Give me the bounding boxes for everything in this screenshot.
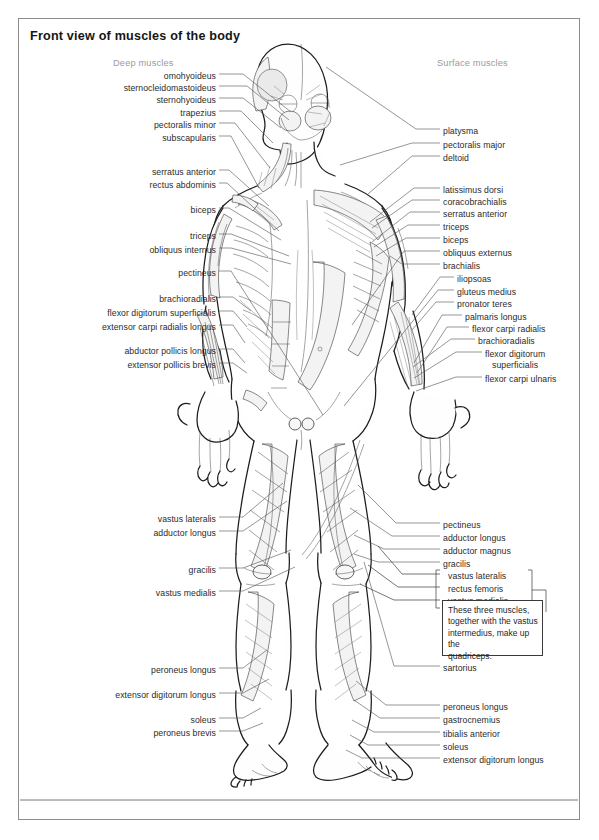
label-soleus-surface: soleus [443, 742, 468, 752]
label-biceps-surface: biceps [443, 235, 468, 245]
label-sternohyoideus: sternohyoideus [156, 95, 216, 105]
column-heading-deep: Deep muscles [113, 58, 174, 68]
label-latissimus-dorsi: latissimus dorsi [443, 185, 503, 195]
anatomy-diagram-page: Front view of muscles of the body Deep m… [0, 0, 599, 840]
label-brachioradialis-deep: brachioradialis [159, 294, 216, 304]
diagram-frame [18, 18, 580, 820]
label-extensor-pollicis-brevis: extensor pollicis brevis [127, 360, 216, 370]
label-omohyoideus: omohyoideus [164, 71, 216, 81]
page-title: Front view of muscles of the body [30, 29, 240, 43]
label-gracilis-deep: gracilis [189, 565, 216, 575]
label-adductor-magnus: adductor magnus [443, 546, 511, 556]
label-flexor-digitorum-superficialis-deep: flexor digitorum superficialis [107, 308, 216, 318]
label-superficialis: superficialis [492, 360, 538, 370]
label-abductor-pollicis-longus: abductor pollicis longus [124, 346, 216, 356]
label-vastus-medialis-deep: vastus medialis [156, 588, 216, 598]
label-trapezius: trapezius [180, 108, 216, 118]
label-iliopsoas: iliopsoas [457, 274, 491, 284]
label-serratus-anterior-surface: serratus anterior [443, 209, 507, 219]
label-sartorius: sartorius [443, 663, 477, 673]
label-tibialis-anterior: tibialis anterior [443, 729, 500, 739]
label-vastus-lateralis-deep: vastus lateralis [158, 514, 216, 524]
label-triceps-surface: triceps [443, 222, 469, 232]
quadriceps-note-text: These three muscles, together with the v… [448, 605, 538, 662]
label-pectoralis-minor: pectoralis minor [154, 120, 216, 130]
label-flexor-carpi-ulnaris: flexor carpi ulnaris [485, 374, 557, 384]
label-triceps-deep: triceps [190, 231, 216, 241]
label-flexor-digitorum: flexor digitorum [485, 349, 545, 359]
label-extensor-digitorum-longus-deep: extensor digitorum longus [115, 690, 216, 700]
label-obliquus-internus: obliquus internus [149, 245, 216, 255]
label-vastus-lateralis-surface: vastus lateralis [448, 571, 506, 581]
label-pronator-teres: pronator teres [457, 299, 512, 309]
label-pectineus-surface: pectineus [443, 520, 481, 530]
label-coracobrachialis: coracobrachialis [443, 197, 507, 207]
label-rectus-abdominis: rectus abdominis [150, 180, 216, 190]
label-rectus-femoris: rectus femoris [448, 584, 503, 594]
label-gastrocnemius: gastrocnemius [443, 715, 500, 725]
label-palmaris-longus: palmaris longus [465, 312, 527, 322]
label-extensor-carpi-radialis-longus: extensor carpi radialis longus [102, 322, 216, 332]
label-gracilis-surface: gracilis [443, 559, 470, 569]
label-soleus-deep: soleus [191, 715, 216, 725]
label-serratus-anterior-deep: serratus anterior [152, 167, 216, 177]
label-peroneus-longus-surface: peroneus longus [443, 702, 508, 712]
label-extensor-digitorum-longus-surface: extensor digitorum longus [443, 755, 544, 765]
label-obliquus-externus: obliquus externus [443, 248, 512, 258]
label-gluteus-medius: gluteus medius [457, 287, 516, 297]
label-subscapularis: subscapularis [162, 133, 216, 143]
label-pectineus-deep: pectineus [178, 268, 216, 278]
label-biceps-deep: biceps [191, 205, 216, 215]
label-adductor-longus-deep: adductor longus [153, 528, 216, 538]
label-deltoid: deltoid [443, 153, 469, 163]
label-flexor-carpi-radialis: flexor carpi radialis [472, 324, 545, 334]
label-brachioradialis-surface: brachioradialis [478, 336, 535, 346]
label-peroneus-brevis: peroneus brevis [153, 728, 216, 738]
column-heading-surface: Surface muscles [437, 58, 508, 68]
label-adductor-longus-surface: adductor longus [443, 533, 506, 543]
label-pectoralis-major: pectoralis major [443, 140, 505, 150]
label-sternocleidomastoideus: sternocleidomastoideus [124, 83, 216, 93]
quadriceps-note-box: These three muscles, together with the v… [442, 600, 543, 656]
label-brachialis: brachialis [443, 261, 480, 271]
label-platysma: platysma [443, 126, 478, 136]
label-peroneus-longus-deep: peroneus longus [151, 665, 216, 675]
